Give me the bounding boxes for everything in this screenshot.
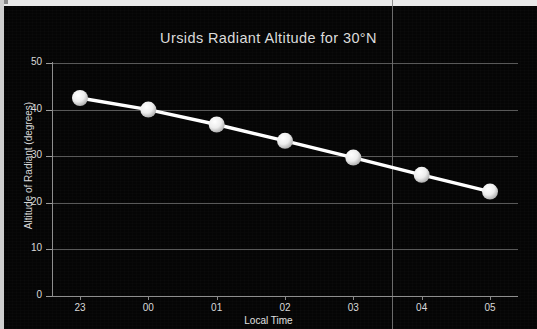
- data-point-marker: [277, 133, 293, 149]
- chart-canvas: Ursids Radiant Altitude for 30°N Altitud…: [0, 0, 537, 329]
- data-point-marker: [482, 184, 498, 200]
- data-point-marker: [345, 150, 361, 166]
- data-point-marker: [72, 90, 88, 106]
- data-point-marker: [209, 117, 225, 133]
- data-point-marker: [414, 167, 430, 183]
- data-point-marker: [140, 102, 156, 118]
- data-series-layer: [0, 0, 537, 329]
